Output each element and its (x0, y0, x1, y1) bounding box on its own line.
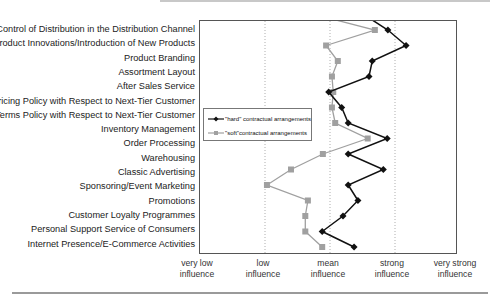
square-marker-icon (372, 27, 378, 33)
category-label: Control of Distribution in the Distribut… (0, 24, 195, 35)
bottom-rule (12, 292, 488, 294)
legend: "hard" contractual arrangements "soft"co… (203, 108, 312, 141)
category-label: Personal Support Service of Consumers (31, 224, 195, 235)
square-marker-icon (365, 136, 371, 142)
category-label: Order Processing (124, 138, 196, 149)
square-marker-icon (302, 213, 308, 219)
category-label: Inventory Management (101, 124, 195, 135)
square-marker-icon (305, 198, 311, 204)
category-label: Product Innovations/Introduction of New … (0, 38, 195, 49)
x-tick-label: very lowinfluence (162, 258, 232, 280)
category-label: Terms Policy with Respect to Next-Tier C… (0, 109, 195, 120)
x-tick-line1: very low (162, 258, 232, 269)
x-axis-labels: very lowinfluencelowinfluencemeaninfluen… (0, 258, 497, 288)
x-tick-line2: influence (357, 269, 427, 280)
category-label: Promotions (149, 195, 195, 206)
legend-label-hard: "hard" contractual arrangements (225, 116, 311, 122)
hard-series-line (322, 21, 406, 247)
square-marker-icon (335, 58, 341, 64)
category-label: After Sales Service (117, 81, 195, 92)
category-label: Classic Advertising (118, 167, 195, 178)
diamond-marker-icon (384, 135, 391, 142)
square-marker-icon (332, 120, 338, 126)
category-label: Sponsoring/Event Marketing (80, 181, 195, 192)
diamond-marker-icon (208, 115, 224, 123)
square-marker-icon (288, 167, 294, 173)
square-marker-icon (329, 105, 335, 111)
x-tick-line2: influence (293, 269, 363, 280)
square-marker-icon (329, 74, 335, 80)
diamond-marker-icon (345, 120, 352, 127)
x-tick-label: stronginfluence (357, 258, 427, 280)
diamond-marker-icon (369, 58, 376, 65)
diamond-marker-icon (380, 166, 387, 173)
x-tick-line1: low (228, 258, 298, 269)
top-rule (160, 0, 490, 2)
diamond-marker-icon (366, 73, 373, 80)
x-tick-line2: influence (420, 269, 490, 280)
square-marker-icon (302, 229, 308, 235)
square-marker-icon (323, 43, 329, 49)
x-tick-label: very stronginfluence (420, 258, 490, 280)
x-tick-line1: strong (357, 258, 427, 269)
category-label: Assortment Layout (118, 66, 195, 77)
legend-item-hard: "hard" contractual arrangements (208, 115, 311, 123)
x-tick-line1: very strong (420, 258, 490, 269)
x-tick-label: lowinfluence (228, 258, 298, 280)
category-label: Internet Presence/E-Commerce Activities (28, 238, 195, 249)
x-tick-line2: influence (228, 269, 298, 280)
x-tick-line2: influence (162, 269, 232, 280)
legend-item-soft: "soft"contractual arrangements (208, 129, 307, 137)
square-marker-icon (208, 129, 224, 137)
square-marker-icon (264, 182, 270, 188)
x-tick-label: meaninfluence (293, 258, 363, 280)
category-label: Product Branding (124, 52, 195, 63)
diamond-marker-icon (351, 244, 358, 251)
square-marker-icon (319, 244, 325, 250)
diamond-marker-icon (345, 151, 352, 158)
square-marker-icon (320, 151, 326, 157)
legend-label-soft: "soft"contractual arrangements (225, 130, 307, 136)
diamond-marker-icon (345, 182, 352, 189)
category-label: Customer Loyalty Programmes (68, 209, 195, 220)
category-label: Warehousing (141, 152, 195, 163)
x-tick-line1: mean (293, 258, 363, 269)
category-labels: Control of Distribution in the Distribut… (0, 0, 195, 260)
category-label: Pricing Policy with Respect to Next-Tier… (0, 95, 195, 106)
